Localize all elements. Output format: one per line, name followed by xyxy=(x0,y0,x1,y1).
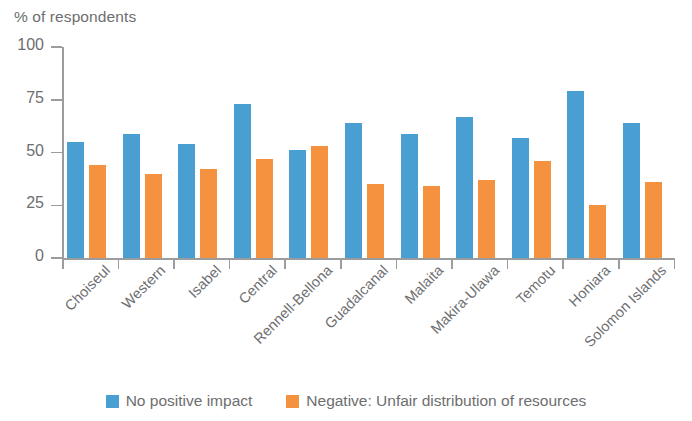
bar xyxy=(645,182,662,258)
bar xyxy=(423,186,440,258)
x-tick-mark xyxy=(507,258,509,269)
chart-legend: No positive impactNegative: Unfair distr… xyxy=(0,392,692,410)
x-axis-label: Western xyxy=(119,262,169,312)
x-tick-mark xyxy=(396,258,398,269)
bar-group xyxy=(62,47,118,258)
y-tick-label: 75 xyxy=(26,89,44,107)
bar xyxy=(345,123,362,258)
bar-group xyxy=(507,47,563,258)
legend-label: Negative: Unfair distribution of resourc… xyxy=(306,392,586,410)
bar xyxy=(289,150,306,258)
x-tick-mark xyxy=(62,258,64,269)
bar xyxy=(534,161,551,258)
x-tick-mark xyxy=(173,258,175,269)
x-axis-label: Honiara xyxy=(566,262,614,310)
x-tick-mark xyxy=(229,258,231,269)
bar xyxy=(89,165,106,258)
x-tick-mark xyxy=(340,258,342,269)
legend-swatch-icon xyxy=(286,395,299,408)
x-tick-mark xyxy=(562,258,564,269)
bar xyxy=(623,123,640,258)
x-tick-mark xyxy=(451,258,453,269)
bar xyxy=(67,142,84,258)
bar-chart: % of respondents 0255075100 ChoiseulWest… xyxy=(0,0,692,421)
x-axis-label: Central xyxy=(235,262,280,307)
bar xyxy=(367,184,384,258)
bar xyxy=(512,138,529,258)
bar-group xyxy=(284,47,340,258)
y-axis-title: % of respondents xyxy=(14,8,136,26)
bar-group xyxy=(173,47,229,258)
bar xyxy=(456,117,473,258)
bar xyxy=(589,205,606,258)
y-tick-mark xyxy=(51,46,62,48)
x-axis-label: Isabel xyxy=(185,262,224,301)
bar-group xyxy=(618,47,674,258)
bar-group xyxy=(118,47,174,258)
plot-area xyxy=(62,47,680,258)
bar xyxy=(123,134,140,258)
bar xyxy=(256,159,273,258)
bar xyxy=(234,104,251,258)
x-tick-mark xyxy=(618,258,620,269)
bar xyxy=(478,180,495,258)
y-tick-mark xyxy=(51,205,62,207)
bar-group xyxy=(340,47,396,258)
bar-group xyxy=(229,47,285,258)
y-tick-mark xyxy=(51,257,62,259)
x-axis-label: Choiseul xyxy=(61,262,113,314)
bar xyxy=(311,146,328,258)
legend-swatch-icon xyxy=(106,395,119,408)
y-tick-label: 0 xyxy=(35,247,44,265)
x-tick-mark xyxy=(284,258,286,269)
legend-item[interactable]: Negative: Unfair distribution of resourc… xyxy=(286,392,586,410)
legend-label: No positive impact xyxy=(126,392,253,410)
bar-group xyxy=(562,47,618,258)
x-tick-mark xyxy=(674,258,676,269)
bar xyxy=(567,91,584,258)
y-tick-label: 25 xyxy=(26,194,44,212)
y-tick-mark xyxy=(51,152,62,154)
x-axis-label: Malaita xyxy=(402,262,447,307)
x-axis-label: Temotu xyxy=(513,262,558,307)
bar xyxy=(200,169,217,258)
y-tick-label: 100 xyxy=(17,36,44,54)
bar xyxy=(401,134,418,258)
bar-group xyxy=(451,47,507,258)
legend-item[interactable]: No positive impact xyxy=(106,392,253,410)
bar-group xyxy=(396,47,452,258)
x-axis-line xyxy=(62,258,674,260)
y-tick-label: 50 xyxy=(26,142,44,160)
bar xyxy=(145,174,162,258)
y-tick-mark xyxy=(51,99,62,101)
x-tick-mark xyxy=(118,258,120,269)
bar xyxy=(178,144,195,258)
